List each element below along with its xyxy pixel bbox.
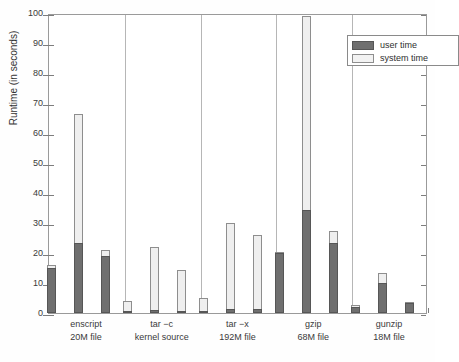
x-group-label-secondary: 18M file: [339, 333, 439, 342]
legend-swatch-user-time: [352, 41, 374, 50]
y-tick-label-10: 10: [17, 279, 43, 288]
bar-3-1: [302, 16, 311, 313]
y-tick-right-50: [421, 165, 426, 166]
bar-4-1: [378, 273, 387, 314]
bar-segment-system-time: [150, 247, 159, 313]
bar-2-0: [199, 298, 208, 313]
y-tick-right-20: [421, 255, 426, 256]
y-tick-inner-90: [49, 45, 54, 46]
bar-segment-user-time: [74, 243, 83, 314]
y-tick-inner-30: [49, 225, 54, 226]
bar-0-2: [101, 250, 110, 313]
bar-segment-system-time: [226, 223, 235, 313]
bar-3-0: [275, 252, 284, 314]
legend-entry-user-time: user time: [352, 39, 454, 51]
bar-segment-user-time: [329, 243, 338, 314]
y-tick-right-40: [421, 195, 426, 196]
bar-segment-user-time: [275, 253, 284, 313]
bar-4-2: [405, 302, 414, 313]
x-group-label-primary: gunzip: [339, 320, 439, 329]
y-tick-inner-80: [49, 75, 54, 76]
bar-segment-user-time: [378, 283, 387, 313]
y-tick-label-80: 80: [17, 69, 43, 78]
bar-segment-user-time: [351, 307, 360, 313]
y-tick-inner-70: [49, 105, 54, 106]
legend-swatch-system-time: [352, 54, 374, 63]
y-tick-inner-100: [49, 15, 54, 16]
y-tick-label-60: 60: [17, 129, 43, 138]
bar-segment-user-time: [123, 311, 132, 313]
y-tick-inner-0: [49, 315, 54, 316]
legend-entry-system-time: system time: [352, 52, 454, 64]
y-tick-label-90: 90: [17, 39, 43, 48]
group-separator-1: [125, 15, 126, 313]
bar-segment-user-time: [405, 303, 414, 313]
y-tick-inner-50: [49, 165, 54, 166]
bar-1-2: [177, 270, 186, 314]
bar-segment-system-time: [253, 235, 262, 313]
y-tick-inner-40: [49, 195, 54, 196]
plot-area: user time system time: [48, 14, 427, 314]
bar-segment-user-time: [150, 310, 159, 313]
chart-legend: user time system time: [347, 35, 459, 66]
y-tick-right-80: [421, 75, 426, 76]
bar-2-1: [226, 223, 235, 313]
y-tick-label-30: 30: [17, 219, 43, 228]
bar-segment-system-time: [177, 270, 186, 314]
bar-0-1: [74, 114, 83, 314]
bar-segment-user-time: [47, 268, 56, 313]
y-tick-right-30: [421, 225, 426, 226]
y-tick-label-50: 50: [17, 159, 43, 168]
legend-label-system-time: system time: [380, 54, 428, 63]
legend-label-user-time: user time: [380, 41, 417, 50]
bar-segment-user-time: [101, 256, 110, 313]
bar-segment-user-time: [302, 210, 311, 314]
bar-segment-user-time: [253, 309, 262, 314]
y-tick-label-40: 40: [17, 189, 43, 198]
bar-segment-user-time: [199, 311, 208, 313]
y-tick-inner-60: [49, 135, 54, 136]
y-tick-right-70: [421, 105, 426, 106]
x-group-label-4: gunzip18M file: [339, 320, 439, 343]
bar-segment-user-time: [177, 311, 186, 313]
y-tick-label-70: 70: [17, 99, 43, 108]
bar-segment-user-time: [226, 309, 235, 314]
bar-0-0: [47, 265, 56, 313]
bar-4-0: [351, 305, 360, 313]
y-tick-right-10: [421, 285, 426, 286]
bar-1-1: [150, 247, 159, 313]
group-separator-2: [201, 15, 202, 313]
y-tick-right-100: [421, 15, 426, 16]
y-tick-inner-20: [49, 255, 54, 256]
x-tick-4: [428, 308, 429, 313]
bar-2-2: [253, 235, 262, 313]
y-tick-label-100: 100: [17, 9, 43, 18]
bar-1-0: [123, 301, 132, 313]
bar-3-2: [329, 231, 338, 314]
y-tick-label-20: 20: [17, 249, 43, 258]
y-tick-right-60: [421, 135, 426, 136]
y-tick-label-0: 0: [17, 309, 43, 318]
y-tick-right-0: [421, 315, 426, 316]
